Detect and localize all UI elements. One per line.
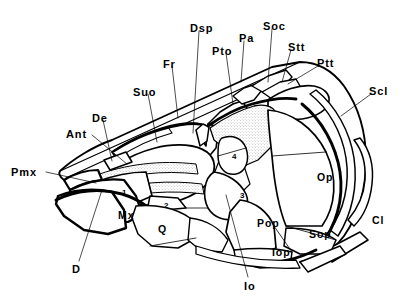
callout-label-soc: Soc: [263, 21, 286, 32]
callout-label-ptt: Ptt: [317, 58, 334, 69]
bone-label-sop: Sop: [309, 229, 332, 240]
callout-label-suo: Suo: [133, 87, 156, 98]
callout-label-pa: Pa: [239, 33, 254, 44]
infraorbital-label-io2: 2: [164, 202, 168, 210]
bone-label-iop: Iop: [272, 247, 290, 258]
bone-label-q: Q: [158, 224, 167, 235]
infraorbital-label-io3: 3: [240, 192, 244, 200]
figure-canvas: PmxAntDeSuoFrDspPtoPaSocSttPttSclDIo MxQ…: [0, 0, 410, 307]
callout-label-dsp: Dsp: [190, 23, 213, 34]
callout-label-de: De: [92, 113, 108, 124]
callout-label-io: Io: [244, 281, 256, 292]
skull-drawing: [0, 0, 410, 307]
callout-label-d: D: [72, 264, 81, 275]
callout-label-pto: Pto: [212, 46, 232, 57]
infraorbital-label-io4: 4: [232, 153, 236, 161]
callout-label-pmx: Pmx: [11, 167, 37, 178]
callout-label-ant: Ant: [66, 129, 87, 140]
bone-label-op: Op: [317, 172, 333, 183]
leader-pa: [241, 41, 244, 82]
bone-label-cl: Cl: [372, 215, 384, 226]
bone-label-mx: Mx: [118, 210, 134, 221]
callout-label-stt: Stt: [288, 42, 305, 53]
callout-label-scl: Scl: [369, 86, 388, 97]
callout-label-fr: Fr: [163, 59, 176, 70]
bone-label-pop: Pop: [257, 218, 280, 229]
leader-fr: [172, 66, 178, 118]
infraorbital-label-io1: 1: [122, 189, 126, 197]
